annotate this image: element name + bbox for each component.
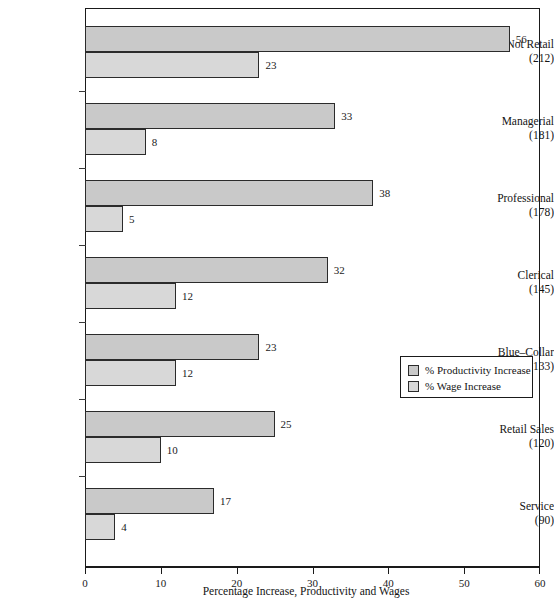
bar-value-label: 17 — [220, 496, 231, 507]
bar-group: 174 — [85, 488, 540, 540]
bar-prod[interactable] — [85, 26, 510, 52]
category-separator-tick — [79, 91, 86, 92]
x-axis-title-text: Percentage Increase, Productivity and Wa… — [203, 585, 410, 597]
bar-group: 3212 — [85, 257, 540, 309]
legend-item-wage[interactable]: % Wage Increase — [408, 378, 532, 394]
bar-prod[interactable] — [85, 103, 335, 129]
legend-label-productivity: % Productivity Increase — [425, 365, 531, 376]
category-separator-tick — [79, 399, 86, 400]
bar-groups: 5623338385321223122510174 — [85, 8, 540, 567]
legend-item-productivity[interactable]: % Productivity Increase — [408, 362, 532, 378]
bar-value-label: 56 — [516, 34, 527, 45]
bar-value-label: 12 — [182, 291, 193, 302]
bar-value-label: 23 — [265, 60, 276, 71]
bar-value-label: 25 — [281, 419, 292, 430]
bar-wage[interactable] — [85, 206, 123, 232]
legend-swatch-productivity — [408, 365, 419, 376]
bar-value-label: 23 — [265, 342, 276, 353]
category-separator-tick — [79, 168, 86, 169]
bar-value-label: 8 — [152, 137, 158, 148]
bar-value-label: 32 — [334, 265, 345, 276]
bar-prod[interactable] — [85, 411, 275, 437]
bar-wage[interactable] — [85, 52, 259, 78]
category-separator-tick — [79, 476, 86, 477]
bar-wage[interactable] — [85, 514, 115, 540]
bar-value-label: 38 — [379, 188, 390, 199]
bar-value-label: 5 — [129, 214, 135, 225]
x-axis-tick — [161, 568, 162, 574]
category-separator-tick — [79, 322, 86, 323]
bar-wage[interactable] — [85, 437, 161, 463]
bar-value-label: 33 — [341, 111, 352, 122]
bar-wage[interactable] — [85, 360, 176, 386]
legend-swatch-wage — [408, 381, 419, 392]
bar-prod[interactable] — [85, 180, 373, 206]
x-axis-tick — [388, 568, 389, 574]
bar-value-label: 10 — [167, 445, 178, 456]
bar-group: 5623 — [85, 26, 540, 78]
bar-wage[interactable] — [85, 129, 146, 155]
legend: % Productivity Increase % Wage Increase — [400, 356, 533, 398]
bar-prod[interactable] — [85, 257, 328, 283]
bar-prod[interactable] — [85, 334, 259, 360]
x-axis-title: Percentage Increase, Productivity and Wa… — [0, 585, 554, 597]
x-axis-tick — [539, 568, 540, 574]
x-axis-tick — [85, 568, 86, 574]
legend-label-wage: % Wage Increase — [425, 381, 501, 392]
bar-value-label: 4 — [121, 522, 127, 533]
bar-value-label: 12 — [182, 368, 193, 379]
category-separator-tick — [79, 245, 86, 246]
bar-group: 338 — [85, 103, 540, 155]
chart-root: Sales, Not Retail(212)Managerial(181)Pro… — [0, 0, 554, 599]
x-axis-tick — [313, 568, 314, 574]
x-axis: 0102030405060 — [85, 567, 540, 568]
bar-group: 385 — [85, 180, 540, 232]
bar-wage[interactable] — [85, 283, 176, 309]
x-axis-tick — [464, 568, 465, 574]
x-axis-tick — [237, 568, 238, 574]
bar-group: 2510 — [85, 411, 540, 463]
bar-prod[interactable] — [85, 488, 214, 514]
